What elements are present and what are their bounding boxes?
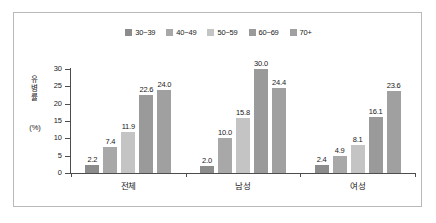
bar-rect[interactable] [157, 90, 171, 173]
y-axis-tick-label: 15 [54, 116, 62, 125]
bar-value-label: 22.6 [139, 85, 153, 94]
bar-rect[interactable] [121, 132, 135, 173]
bar-value-label: 4.9 [335, 146, 345, 155]
x-axis-separator [300, 173, 301, 177]
bar-rect[interactable] [200, 166, 214, 173]
x-axis-separator [186, 173, 187, 177]
y-axis-title: 유병률 [28, 75, 41, 102]
bar-rect[interactable] [272, 88, 286, 173]
bar-column[interactable]: 24.4 [272, 88, 286, 173]
bar-value-label: 2.0 [202, 156, 212, 165]
bar-rect[interactable] [139, 95, 153, 173]
bar-rect[interactable] [103, 147, 117, 173]
bar-column[interactable]: 2.0 [200, 166, 214, 173]
bar-group: 2.27.411.922.624.0 [71, 69, 186, 173]
y-axis-tick-label: 25 [54, 81, 62, 90]
bar-rect[interactable] [254, 69, 268, 173]
bar-group: 2.44.98.116.123.6 [300, 69, 415, 173]
bar-column[interactable]: 24.0 [157, 90, 171, 173]
plot-wrapper: 유병률 (%) 051015202530 2.27.411.922.624.02… [14, 13, 423, 208]
bar-rect[interactable] [351, 145, 365, 173]
y-axis-tick-label: 0 [58, 168, 62, 177]
x-axis-end-tick [415, 173, 416, 177]
bar-column[interactable]: 16.1 [369, 117, 383, 173]
bar-value-label: 16.1 [369, 107, 383, 116]
bar-value-label: 2.2 [87, 155, 97, 164]
bar-column[interactable]: 10.0 [218, 138, 232, 173]
bar-column[interactable]: 11.9 [121, 132, 135, 173]
x-axis-category-label: 전체 [71, 179, 186, 191]
bar-value-label: 7.4 [105, 137, 115, 146]
bar-group: 2.010.015.830.024.4 [186, 69, 301, 173]
bar-value-label: 8.1 [353, 135, 363, 144]
bar-rect[interactable] [218, 138, 232, 173]
bar-rect[interactable] [236, 118, 250, 173]
x-axis-category-label: 여성 [300, 179, 415, 191]
bar-rect[interactable] [369, 117, 383, 173]
chart-frame: 30~3940~4950~5960~6970+ 유병률 (%) 05101520… [13, 12, 422, 207]
bar-value-label: 24.0 [157, 80, 171, 89]
bar-column[interactable]: 15.8 [236, 118, 250, 173]
bar-column[interactable]: 30.0 [254, 69, 268, 173]
bar-column[interactable]: 8.1 [351, 145, 365, 173]
x-axis-line [70, 173, 416, 174]
bar-rect[interactable] [387, 91, 401, 173]
bar-column[interactable]: 23.6 [387, 91, 401, 173]
bar-column[interactable]: 22.6 [139, 95, 153, 173]
bar-rect[interactable] [333, 156, 347, 173]
bar-value-label: 23.6 [387, 81, 401, 90]
y-axis-tick-label: 30 [54, 64, 62, 73]
x-axis-end-tick [71, 173, 72, 177]
y-axis-unit-label: (%) [26, 123, 44, 132]
bar-value-label: 2.4 [317, 155, 327, 164]
bar-column[interactable]: 7.4 [103, 147, 117, 173]
bar-value-label: 15.8 [236, 108, 250, 117]
x-axis-category-label: 남성 [186, 179, 301, 191]
bar-value-label: 11.9 [122, 122, 135, 131]
bar-value-label: 24.4 [272, 78, 286, 87]
bar-rect[interactable] [315, 165, 329, 173]
y-axis-tick-label: 10 [54, 133, 62, 142]
bar-rect[interactable] [85, 165, 99, 173]
bar-value-label: 10.0 [218, 128, 232, 137]
bar-column[interactable]: 4.9 [333, 156, 347, 173]
y-axis-tick-label: 20 [54, 99, 62, 108]
bar-column[interactable]: 2.2 [85, 165, 99, 173]
y-axis-tick-label: 5 [58, 151, 62, 160]
bar-value-label: 30.0 [254, 59, 268, 68]
bar-column[interactable]: 2.4 [315, 165, 329, 173]
